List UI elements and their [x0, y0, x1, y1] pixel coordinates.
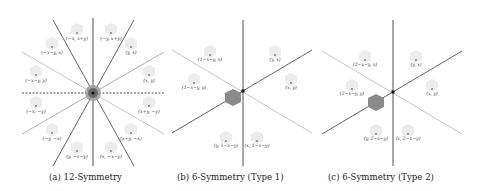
- point-label: (2−x−y, x): [353, 62, 377, 68]
- point-label: (x+y, −y): [138, 109, 160, 115]
- caption-a: (a) 12-Symmetry: [49, 172, 122, 182]
- point-label: (−x−y, y): [25, 78, 47, 84]
- point-label: (x, y): [285, 85, 297, 91]
- point-label: (x, 1−x−y): [245, 143, 270, 149]
- diagram-6-symmetry-type1: (1−x−y, x) (y, x) (1−x−y, y) (x, y) (y, …: [160, 0, 320, 170]
- point-label: (y, x): [125, 50, 136, 56]
- diagram-6-symmetry-type2: (2−x−y, x) (y, x) (2−x−y, y) (x, y) (y, …: [320, 0, 484, 170]
- panel-6-symmetry-type1: (1−x−y, x) (y, x) (1−x−y, y) (x, y) (y, …: [160, 0, 320, 191]
- point-label: (x, 2−x−y): [396, 136, 421, 142]
- point-label: (−x, −y): [26, 109, 46, 115]
- caption-c: (c) 6-Symmetry (Type 2): [328, 172, 434, 182]
- point-label: (x, −x−y): [100, 154, 122, 160]
- point-label: (y, 1−x−y): [214, 143, 239, 149]
- point-label: (y, x): [410, 62, 421, 68]
- point-label: (−y, −x): [43, 136, 62, 142]
- hexagon-shape: [368, 94, 384, 111]
- point-label: (1−x−y, x): [198, 57, 222, 63]
- point-label: (2−x−y, y): [340, 91, 365, 97]
- point-label: (1−x−y, y): [182, 85, 207, 91]
- point-label: (−y, x+y): [100, 36, 122, 42]
- panel-12-symmetry: (−x, x+y) (−y, x+y) (−x−y, x) (y, x) (−x…: [0, 0, 170, 191]
- caption-b: (b) 6-Symmetry (Type 1): [177, 172, 284, 182]
- point-label: (x, y): [143, 78, 155, 84]
- hexagon-shape: [225, 89, 241, 106]
- point-label: (y, x): [269, 57, 280, 63]
- point-label: (−x, x+y): [66, 36, 88, 42]
- point-label: (x+y, −x): [120, 136, 142, 142]
- panel-6-symmetry-type2: (2−x−y, x) (y, x) (2−x−y, y) (x, y) (y, …: [320, 0, 484, 191]
- point-label: (x, y): [426, 91, 438, 97]
- point-label: (−x−y, x): [41, 50, 63, 56]
- point-label: (y, 2−x−y): [364, 136, 389, 142]
- diagram-12-symmetry: (−x, x+y) (−y, x+y) (−x−y, x) (y, x) (−x…: [0, 0, 170, 170]
- point-label: (y, −x−y): [66, 154, 88, 160]
